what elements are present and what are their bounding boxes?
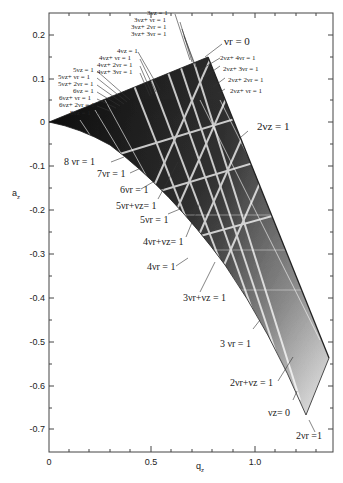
annotation: 7νr = 1 xyxy=(97,168,126,179)
annotation: 6νr = 1 xyxy=(120,184,149,195)
annotation: νr = 0 xyxy=(224,35,250,47)
y-tick-label: -0.1 xyxy=(29,161,45,171)
y-tick-label: -0.4 xyxy=(29,293,45,303)
annotation: νz= 0 xyxy=(268,407,290,418)
annotation: 3νz+ 3νr = 1 xyxy=(131,30,167,38)
annotation: 4νr = 1 xyxy=(147,261,176,272)
y-tick-label: -0.5 xyxy=(29,337,45,347)
annotation: 5νr+νz= 1 xyxy=(116,200,157,211)
annotation: 2νz+ 2νr = 1 xyxy=(228,76,264,84)
x-tick-labels: 0 0.5 1.0 xyxy=(46,457,261,467)
annotation: 2νz+ 3νr = 1 xyxy=(223,65,259,73)
y-tick-label: -0.3 xyxy=(29,249,45,259)
annotation: 3νr+νz = 1 xyxy=(183,292,226,303)
annotation: 2νr =1 xyxy=(296,430,322,441)
y-tick-labels: 0.2 0.1 0 -0.1 -0.2 -0.3 -0.4 -0.5 -0.6 … xyxy=(29,30,45,434)
annotation: 2νz = 1 xyxy=(257,120,290,132)
annotation: 4νr+νz= 1 xyxy=(143,236,184,247)
annotation: 8 νr = 1 xyxy=(64,156,95,167)
x-tick-label: 1.0 xyxy=(249,457,262,467)
annotation: 2νr+νz = 1 xyxy=(230,377,273,388)
stability-diagram: 0.2 0.1 0 -0.1 -0.2 -0.3 -0.4 -0.5 -0.6 … xyxy=(0,0,343,483)
y-axis-title: az xyxy=(12,188,20,200)
annotation: 2νz+ νr = 1 xyxy=(230,87,262,95)
annotation: 4νz+ 3νr = 1 xyxy=(97,68,133,76)
x-tick-label: 0.5 xyxy=(145,457,158,467)
y-tick-label: 0 xyxy=(40,117,45,127)
annotation: 8νz = 1 xyxy=(70,109,91,117)
x-tick-label: 0 xyxy=(46,457,51,467)
y-tick-label: 0.1 xyxy=(32,74,45,84)
y-tick-label: -0.6 xyxy=(29,381,45,391)
annotation: 2νz+ 4νr = 1 xyxy=(220,54,256,62)
annotation: 6νz+ 2νr = 1 xyxy=(59,101,95,109)
y-tick-label: -0.2 xyxy=(29,205,45,215)
x-axis-title: qz xyxy=(196,461,204,473)
y-tick-label: -0.7 xyxy=(29,424,45,434)
annotation: 3 νr = 1 xyxy=(220,338,251,349)
annotation: 5νr = 1 xyxy=(140,214,169,225)
y-tick-label: 0.2 xyxy=(32,30,45,40)
